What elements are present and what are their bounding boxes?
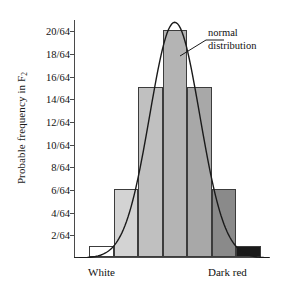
x-axis-line — [74, 257, 270, 258]
bar — [89, 246, 114, 257]
curve-annotation: normal distribution — [208, 26, 300, 52]
curve-annotation-line1: normal — [208, 26, 300, 39]
bar — [138, 87, 163, 257]
y-axis-tick-label: 4/64 — [26, 207, 70, 218]
bar — [236, 246, 261, 257]
y-axis-tick-mark — [70, 167, 75, 168]
y-axis-tick-mark — [70, 145, 75, 146]
bar-series — [75, 20, 270, 257]
y-axis-tick-mark — [70, 235, 75, 236]
curve-annotation-line2: distribution — [208, 39, 300, 52]
bar — [187, 87, 212, 257]
y-axis-tick-label: 10/64 — [26, 139, 70, 150]
y-axis-tick-label: 8/64 — [26, 162, 70, 173]
y-axis-tick-label: 2/64 — [26, 230, 70, 241]
x-axis-label-white: White — [88, 266, 115, 278]
y-axis-tick-label: 16/64 — [26, 71, 70, 82]
y-axis-tick-label: 18/64 — [26, 49, 70, 60]
y-axis-tick-mark — [70, 31, 75, 32]
y-axis-tick-mark — [70, 190, 75, 191]
y-axis-tick-label: 20/64 — [26, 26, 70, 37]
y-axis-tick-labels: 2/644/646/648/6410/6412/6414/6416/6418/6… — [26, 0, 70, 295]
y-axis-tick-mark — [70, 99, 75, 100]
y-axis-tick-mark — [70, 213, 75, 214]
bar — [212, 189, 237, 257]
y-axis-tick-label: 6/64 — [26, 185, 70, 196]
y-axis-tick-mark — [70, 77, 75, 78]
chart-figure: Probable frequency in F2 2/644/646/648/6… — [0, 0, 302, 295]
y-axis-tick-label: 12/64 — [26, 117, 70, 128]
x-axis-label-dark-red: Dark red — [208, 266, 247, 278]
bar — [114, 189, 139, 257]
y-axis-tick-mark — [70, 54, 75, 55]
y-axis-tick-label: 14/64 — [26, 94, 70, 105]
y-axis-tick-mark — [70, 122, 75, 123]
bar — [163, 30, 188, 257]
plot-area — [74, 20, 270, 258]
